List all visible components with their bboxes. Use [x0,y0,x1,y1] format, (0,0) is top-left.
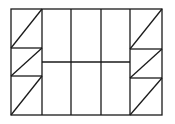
left-diagonal-3 [11,76,42,115]
right-diagonal-2 [130,49,162,78]
left-diagonal-1 [11,9,42,48]
left-diagonal-2 [11,48,42,76]
right-diagonal-3 [130,78,162,115]
geometric-figure [0,0,175,124]
right-diagonal-1 [130,9,162,49]
